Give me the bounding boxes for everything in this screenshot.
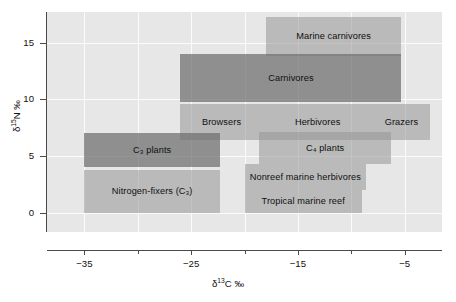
x-axis-title: δ13C ‰: [0, 277, 456, 289]
niche-box-label: Tropical marine reef: [262, 196, 345, 206]
niche-box-label: C₄ plants: [306, 143, 344, 153]
x-tick: [298, 250, 299, 255]
niche-box: C₃ plants: [84, 133, 220, 167]
x-tick-minor: [351, 250, 352, 254]
y-tick: [40, 99, 46, 100]
niche-box: Nonreef marine herbivores: [245, 164, 367, 190]
x-tick-label: −25: [171, 258, 211, 269]
niche-box-label: C₃ plants: [133, 145, 171, 155]
niche-box-label: Herbivores: [295, 117, 340, 127]
isotope-niche-chart: Marine carnivoresCarnivoresBrowsersHerbi…: [0, 0, 456, 302]
x-tick: [405, 250, 406, 255]
niche-box-label: Browsers: [202, 117, 241, 127]
y-tick: [40, 156, 46, 157]
y-axis-line: [46, 12, 47, 232]
x-tick-label: −5: [385, 258, 425, 269]
niche-box: C₄ plants: [259, 132, 390, 164]
y-tick: [40, 213, 46, 214]
y-tick-label: 0: [8, 207, 34, 218]
niche-box-label: Grazers: [385, 117, 418, 127]
x-tick-label: −35: [64, 258, 104, 269]
niche-box: Nitrogen-fixers (C₃): [84, 170, 220, 213]
x-tick-label: −15: [278, 258, 318, 269]
niche-box-label: Nitrogen-fixers (C₃): [112, 186, 193, 196]
plot-panel: Marine carnivoresCarnivoresBrowsersHerbi…: [47, 12, 442, 232]
y-tick-label: 5: [8, 150, 34, 161]
y-tick: [40, 43, 46, 44]
niche-box-label: Carnivores: [268, 73, 313, 83]
x-tick-minor: [245, 250, 246, 254]
niche-box: Tropical marine reef: [245, 190, 362, 213]
niche-box-label: Nonreef marine herbivores: [250, 172, 361, 182]
y-tick-label: 10: [8, 93, 34, 104]
x-tick-minor: [138, 250, 139, 254]
niche-box: Carnivores: [180, 54, 401, 102]
x-tick: [191, 250, 192, 255]
y-tick-label: 15: [8, 37, 34, 48]
niche-box-label: Marine carnivores: [296, 31, 371, 41]
x-tick: [84, 250, 85, 255]
niche-box: Marine carnivores: [266, 17, 402, 57]
